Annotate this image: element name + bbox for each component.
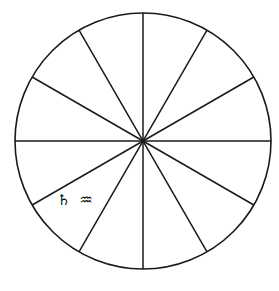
zodiac-wheel-svg xyxy=(0,0,279,291)
diagram-canvas: ♄ ♒ xyxy=(0,0,279,291)
